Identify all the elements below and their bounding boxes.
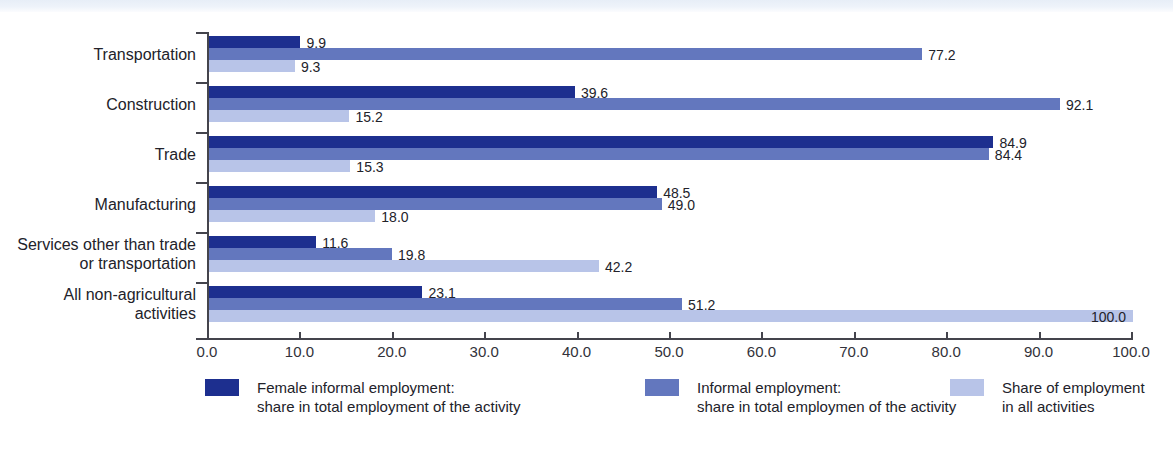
x-axis-tick [207,332,209,340]
x-axis-tick-label: 0.0 [197,343,218,360]
legend-color-swatch [950,379,984,396]
y-axis-tick [196,32,208,34]
x-axis-tick-label: 100.0 [1112,343,1150,360]
x-axis-tick [761,332,763,340]
bar [209,186,657,198]
x-axis-tick [1131,332,1133,340]
legend-item[interactable]: Informal employment: share in total empl… [645,378,956,416]
bar-value-label: 15.3 [350,161,383,173]
x-axis-tick-label: 80.0 [932,343,961,360]
x-axis-tick-label: 60.0 [747,343,776,360]
bar-value-label: 9.3 [295,61,320,73]
x-axis-tick-label: 20.0 [377,343,406,360]
y-axis-tick [196,82,208,84]
bar [209,236,316,248]
bar-value-label: 18.0 [375,211,408,223]
bar [209,110,349,122]
y-axis-tick [196,132,208,134]
x-axis-tick-label: 90.0 [1024,343,1053,360]
category-label: Transportation [0,45,196,64]
legend-color-swatch [645,379,679,396]
x-axis-tick [299,332,301,340]
y-axis-tick [196,282,208,284]
bar-group: 9.977.29.3 [209,36,1133,74]
bar [209,260,599,272]
bar-value-label: 42.2 [599,261,632,273]
x-axis-tick-label: 50.0 [654,343,683,360]
bar-group: 23.151.2100.0 [209,286,1133,324]
legend-item[interactable]: Female informal employment: share in tot… [205,378,520,416]
bar-value-label: 49.0 [662,199,695,211]
bar [209,310,1133,322]
bar [209,198,662,210]
bar [209,98,1060,110]
x-axis-tick [392,332,394,340]
legend-label: Female informal employment: share in tot… [257,378,520,416]
category-label: Manufacturing [0,195,196,214]
horizontal-grouped-bar-chart: 0.010.020.030.040.050.060.070.080.090.01… [0,0,1173,449]
x-axis-tick-label: 40.0 [562,343,591,360]
y-axis-tick [196,232,208,234]
category-label: Trade [0,145,196,164]
bar-value-label: 77.2 [922,49,955,61]
bar [209,298,682,310]
x-axis-tick [577,332,579,340]
x-axis-tick-label: 30.0 [470,343,499,360]
bar [209,36,300,48]
bar-value-label: 84.4 [989,149,1022,161]
legend-color-swatch [205,379,239,396]
bar-group: 39.692.115.2 [209,86,1133,124]
x-axis-tick [946,332,948,340]
bar [209,160,350,172]
bar [209,86,575,98]
x-axis-tick-label: 10.0 [285,343,314,360]
category-label: Construction [0,95,196,114]
chart-legend: Female informal employment: share in tot… [205,378,1155,438]
x-axis-tick [854,332,856,340]
bar [209,60,295,72]
y-axis-tick [196,182,208,184]
bar [209,248,392,260]
legend-label: Share of employment in all activities [1002,378,1145,416]
x-axis-tick [669,332,671,340]
x-axis-tick [484,332,486,340]
bar [209,136,993,148]
bar-value-label: 92.1 [1060,99,1093,111]
bar [209,210,375,222]
category-label: Services other than trade or transportat… [0,235,196,273]
legend-item[interactable]: Share of employment in all activities [950,378,1145,416]
bar [209,286,422,298]
bar-group: 84.984.415.3 [209,136,1133,174]
x-axis-tick [1039,332,1041,340]
bar-value-label: 15.2 [349,111,382,123]
legend-label: Informal employment: share in total empl… [697,378,956,416]
x-axis-tick-label: 70.0 [839,343,868,360]
bar-group: 48.549.018.0 [209,186,1133,224]
bar-value-label: 100.0 [1091,311,1133,323]
category-label: All non-agricultural activities [0,285,196,323]
bar [209,148,989,160]
bar-group: 11.619.842.2 [209,236,1133,274]
